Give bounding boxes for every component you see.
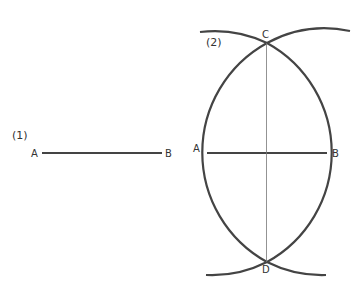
step-1-point-a-label: A [31, 148, 38, 159]
step-1-label: (1) [12, 129, 28, 142]
step-2-label: (2) [206, 36, 222, 49]
step-1-point-b-label: B [165, 148, 172, 159]
step-2-point-a-label: A [193, 143, 200, 154]
arc-bottom-left [206, 262, 267, 275]
step-2-point-b-label: B [332, 148, 339, 159]
step-2-point-c-label: C [262, 29, 269, 40]
arc-bottom-right [267, 262, 326, 275]
step-1: (1) A B [12, 129, 172, 159]
step-2-point-d-label: D [262, 264, 270, 275]
arc-top-right [267, 28, 350, 43]
step-2: (2) A B C D [193, 28, 350, 275]
construction-diagram: (1) A B (2) A B C D [0, 0, 356, 295]
